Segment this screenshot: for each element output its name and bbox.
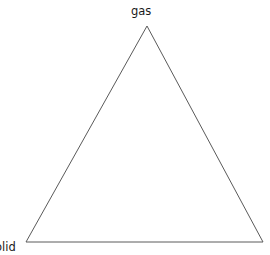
triangle-outline — [26, 26, 263, 242]
diagram-canvas: gas solid — [0, 0, 270, 255]
vertex-label-solid: solid — [0, 241, 16, 254]
vertex-label-gas: gas — [131, 5, 151, 18]
triangle-shape — [0, 0, 270, 255]
